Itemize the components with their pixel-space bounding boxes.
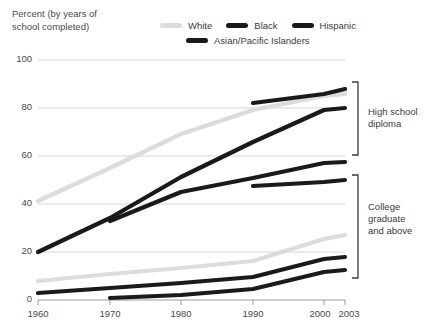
series-line-col-asian-pacific-islanders: [253, 180, 345, 186]
y-tick-100: 100: [8, 53, 32, 64]
bracket-college-graduate: [352, 175, 358, 278]
x-tick-2003: 2003: [332, 308, 366, 319]
y-tick-80: 80: [8, 101, 32, 112]
x-tick-1960: 1960: [21, 308, 55, 319]
x-tick-1970: 1970: [93, 308, 127, 319]
x-axis-ticks: [38, 300, 345, 305]
plot-area: [0, 0, 425, 334]
bracket-label-high-school-diploma: High school diploma: [368, 106, 425, 130]
y-tick-0: 0: [8, 293, 32, 304]
series-line-col-white: [38, 235, 345, 281]
y-tick-40: 40: [8, 197, 32, 208]
education-attainment-chart: Percent (by years of school completed) W…: [0, 0, 425, 334]
y-tick-60: 60: [8, 149, 32, 160]
y-tick-20: 20: [8, 245, 32, 256]
bracket-label-college-graduate-and-above: College graduate and above: [368, 201, 425, 237]
x-tick-1990: 1990: [236, 308, 270, 319]
x-tick-1980: 1980: [164, 308, 198, 319]
bracket-high-school-diploma: [352, 82, 358, 155]
series-line-hs-hispanic: [110, 162, 345, 221]
